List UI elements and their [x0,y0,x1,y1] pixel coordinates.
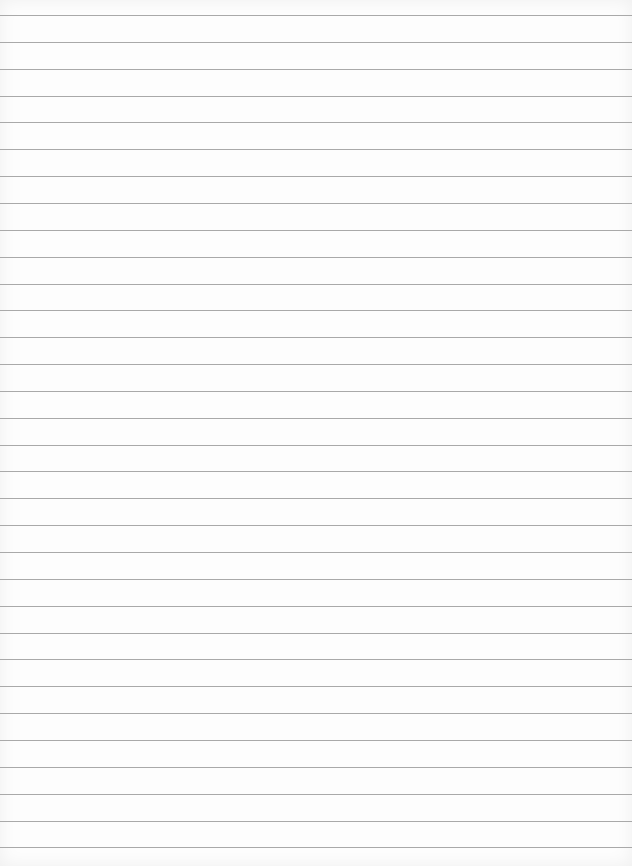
ruled-line [0,149,632,150]
ruled-line [0,767,632,768]
ruled-line [0,391,632,392]
ruled-line [0,445,632,446]
ruled-line [0,122,632,123]
ruled-line [0,337,632,338]
ruled-line [0,69,632,70]
ruled-line [0,525,632,526]
lined-paper-sheet [0,0,632,866]
ruled-line [0,257,632,258]
ruled-line [0,498,632,499]
ruled-line [0,176,632,177]
ruled-line [0,42,632,43]
ruled-line [0,96,632,97]
ruled-line [0,686,632,687]
ruled-line [0,471,632,472]
ruled-line [0,740,632,741]
ruled-line [0,579,632,580]
ruled-line [0,310,632,311]
ruled-line [0,203,632,204]
ruled-line [0,230,632,231]
ruled-line [0,821,632,822]
ruled-line [0,713,632,714]
ruled-line [0,659,632,660]
ruled-line [0,15,632,16]
ruled-line [0,418,632,419]
ruled-line [0,794,632,795]
ruled-line [0,284,632,285]
ruled-line [0,847,632,848]
ruled-line [0,606,632,607]
ruled-line [0,633,632,634]
ruled-line [0,364,632,365]
ruled-line [0,552,632,553]
